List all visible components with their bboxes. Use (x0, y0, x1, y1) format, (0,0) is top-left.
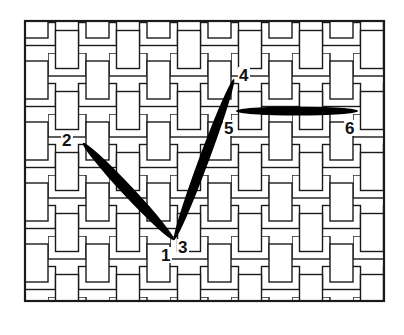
point-label-6: 6 (345, 119, 354, 138)
point-label-3: 3 (178, 238, 187, 257)
stitch-5-6 (236, 107, 358, 116)
point-label-5: 5 (224, 119, 233, 138)
caption-fragment: ... (0, 327, 404, 335)
point-label-2: 2 (62, 131, 71, 150)
stitch-diagram: 123456 (0, 0, 404, 335)
point-label-1: 1 (161, 246, 170, 265)
point-label-4: 4 (239, 66, 249, 85)
